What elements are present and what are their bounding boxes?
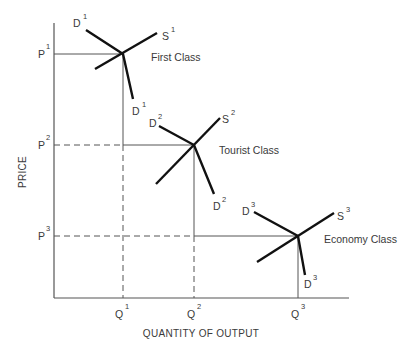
s1-label: S bbox=[162, 30, 169, 42]
tourist-class-label: Tourist Class bbox=[219, 144, 279, 156]
q3-sup: 3 bbox=[301, 302, 305, 311]
p2-label: P bbox=[38, 139, 45, 151]
d2-bottom-sup: 2 bbox=[222, 195, 226, 204]
d2-bottom-label: D bbox=[213, 200, 221, 212]
demand-curve-2 bbox=[159, 126, 214, 194]
q1-label: Q bbox=[115, 308, 123, 320]
tourist-class-market bbox=[156, 118, 220, 194]
d2-top-label: D bbox=[149, 117, 157, 129]
d3-top-sup: 3 bbox=[251, 200, 255, 209]
d1-bottom-sup: 1 bbox=[142, 100, 146, 109]
s2-sup: 2 bbox=[231, 108, 235, 117]
supply-curve-2 bbox=[156, 118, 220, 184]
p3-label: P bbox=[38, 230, 45, 242]
d2-top-sup: 2 bbox=[158, 112, 162, 121]
d3-top-label: D bbox=[242, 205, 250, 217]
q3-label: Q bbox=[291, 308, 299, 320]
d1-bottom-label: D bbox=[132, 105, 140, 117]
economy-class-label: Economy Class bbox=[324, 233, 397, 245]
economy-class-market bbox=[254, 212, 334, 275]
p2-sup: 2 bbox=[46, 133, 50, 142]
s2-label: S bbox=[222, 113, 229, 125]
demand-curve-3 bbox=[254, 212, 305, 275]
q2-sup: 2 bbox=[197, 302, 201, 311]
s3-label: S bbox=[337, 210, 344, 222]
x-axis-title: QUANTITY OF OUTPUT bbox=[143, 328, 259, 339]
first-class-market bbox=[86, 30, 157, 99]
q2-label: Q bbox=[187, 308, 195, 320]
d1-top-sup: 1 bbox=[83, 12, 87, 21]
p3-sup: 3 bbox=[46, 224, 50, 233]
y-axis-title: PRICE bbox=[17, 156, 28, 188]
s3-sup: 3 bbox=[346, 205, 350, 214]
d3-bottom-label: D bbox=[304, 278, 312, 290]
d1-top-label: D bbox=[73, 17, 81, 29]
price-discrimination-diagram: P 1 P 2 P 3 Q 1 Q 2 Q 3 QUANTITY OF OUTP… bbox=[0, 0, 407, 351]
s1-sup: 1 bbox=[171, 25, 175, 34]
p1-label: P bbox=[38, 48, 45, 60]
demand-curve-1 bbox=[86, 30, 133, 99]
q1-sup: 1 bbox=[125, 302, 129, 311]
p1-sup: 1 bbox=[46, 42, 50, 51]
d3-bottom-sup: 3 bbox=[313, 273, 317, 282]
first-class-label: First Class bbox=[151, 51, 201, 63]
